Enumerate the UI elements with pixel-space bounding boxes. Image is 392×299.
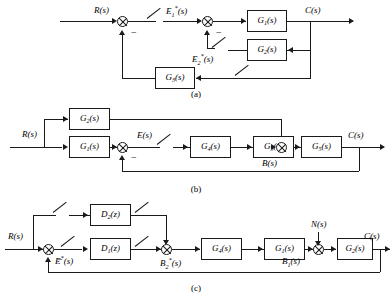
summing-junction-c1: [43, 244, 54, 255]
arrow-a-output: [349, 18, 354, 24]
signal-label-b1-c: B1(s): [282, 257, 300, 268]
sampler-c-top: [54, 207, 69, 216]
caption-a: (a): [0, 90, 392, 99]
signal-label-b2-c: B2*(s): [160, 257, 181, 270]
wire-a-sampler-sum2: [163, 21, 200, 22]
wire-b-fb-down: [359, 147, 360, 171]
wire-a-g2-sampler: [228, 50, 248, 51]
arrow-b-g5-in: [295, 144, 300, 150]
wire-a-g3-up: [122, 32, 123, 78]
input-label-r: R(s): [94, 6, 109, 15]
arrow-c-d2-in: [83, 212, 88, 218]
output-label-c-b: C(s): [348, 131, 364, 140]
block-g5-b: G5(s): [301, 136, 342, 158]
arrow-b-g4-in: [183, 144, 188, 150]
disturbance-label-n: N(s): [311, 220, 327, 229]
block-g1-c-label: G1(s): [275, 243, 294, 255]
block-g1-a: G1(s): [247, 10, 287, 32]
signal-label-e2: E2*(s): [192, 53, 213, 66]
summing-junction-b1: [117, 142, 128, 153]
block-g1-b: G1(s): [69, 136, 110, 158]
summing-junction-b2: [276, 142, 287, 153]
arrow-a-g1: [241, 18, 246, 24]
wire-c-fb-rail: [48, 272, 380, 273]
block-g2-b-label: G2(s): [80, 113, 99, 125]
input-label-r-b: R(s): [22, 130, 37, 139]
arrow-b-sum1-feedback: [119, 155, 125, 160]
minus-sign-a2: −: [216, 28, 222, 38]
sampler-a3: [236, 70, 251, 79]
caption-b: (b): [0, 185, 392, 194]
block-g2-c-label: G2(s): [345, 243, 364, 255]
arrow-c-g1-in: [258, 246, 263, 252]
block-g4-b-label: G4(s): [201, 141, 220, 153]
summing-junction-c2: [161, 244, 172, 255]
wire-c-top-rail: [33, 215, 56, 216]
block-g2-c: G2(s): [337, 238, 373, 260]
signal-label-e-b: E(s): [137, 131, 152, 140]
block-d2-c-label: D2(z): [101, 209, 120, 221]
minus-sign-a1: −: [131, 28, 137, 38]
arrow-c-output: [385, 246, 390, 252]
output-label-c-c: C(s): [364, 232, 380, 241]
block-g4-c: G4(s): [201, 238, 242, 260]
wire-a-tap-down: [310, 21, 311, 50]
block-g2-b: G2(s): [69, 108, 110, 130]
signal-label-b-b: B(s): [262, 159, 277, 168]
arrow-c-sum1-feedback: [45, 257, 51, 262]
block-g5-b-label: G5(s): [312, 141, 331, 153]
wire-a-outer-down: [310, 50, 311, 78]
summing-junction-a1: [117, 16, 128, 27]
wire-b-output: [342, 147, 384, 148]
block-g2-a-label: G2(s): [257, 44, 276, 56]
wire-c-split-up: [33, 215, 34, 249]
arrow-c-d1-in: [83, 246, 88, 252]
signal-label-e-c: E*(s): [55, 255, 73, 266]
arrow-b-sum2-in: [271, 144, 276, 150]
sampler-c-bot2: [136, 241, 151, 250]
sampler-c-bot: [62, 241, 77, 250]
input-label-r-c: R(s): [8, 232, 23, 241]
arrow-c-n-in: [315, 241, 321, 246]
block-g3-a: G3(s): [155, 67, 195, 89]
block-g2-a: G2(s): [247, 39, 287, 61]
signal-label-e1: E1*(s): [166, 5, 187, 18]
sampler-a2: [213, 42, 228, 51]
caption-c: (c): [0, 284, 392, 293]
block-d1-c: D1(z): [90, 238, 131, 260]
arrow-c-g4-in: [195, 246, 200, 252]
block-g4-c-label: G4(s): [212, 243, 231, 255]
sampler-c-top2: [136, 207, 151, 216]
output-label-c-a: C(s): [305, 6, 321, 15]
wire-a-g1-out: [287, 21, 353, 22]
wire-b-g2-out: [110, 119, 281, 120]
arrow-b-output: [380, 144, 385, 150]
arrow-a-sum2-feedback: [204, 30, 210, 35]
wire-c-fb-down: [380, 249, 381, 272]
sampler-a1: [148, 13, 163, 22]
arrow-c-g2-in: [331, 246, 336, 252]
figure-canvas: R(s) − E1*(s) − G1(s) C(s): [0, 0, 392, 299]
block-d1-c-label: D1(z): [101, 243, 120, 255]
block-g1-b-label: G1(s): [80, 141, 99, 153]
block-g3-a-label: G3(s): [165, 72, 184, 84]
arrow-b-g3-in: [247, 144, 252, 150]
arrow-a-g2-in: [288, 47, 293, 53]
wire-a-sampler2-join: [207, 48, 215, 49]
block-g1-a-label: G1(s): [257, 15, 276, 27]
wire-b-sum1-sampler: [128, 147, 160, 148]
arrow-b-g1-in: [63, 144, 68, 150]
wire-a-sampler3-g3: [196, 78, 236, 79]
wire-c-d2-to-node: [153, 215, 167, 216]
wire-b-split-up: [44, 119, 45, 147]
arrow-b-g2-in: [63, 116, 68, 122]
sampler-b1: [158, 139, 173, 148]
minus-sign-b1: −: [131, 153, 137, 163]
arrow-a-sum1-feedback: [119, 30, 125, 35]
wire-a-g3-left: [122, 78, 155, 79]
summing-junction-a2: [202, 16, 213, 27]
wire-b-input: [10, 147, 62, 148]
block-d2-c: D2(z): [90, 204, 131, 226]
wire-b-fb-rail: [122, 171, 359, 172]
wire-input-a: [60, 21, 115, 22]
